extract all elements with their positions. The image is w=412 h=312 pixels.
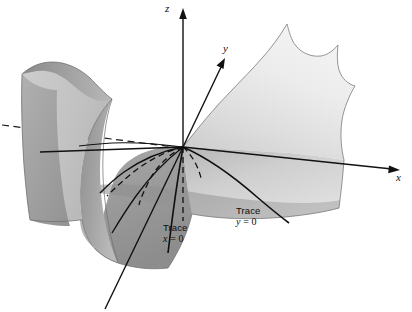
trace-label-x-equals-0: Trace x = 0 [163, 222, 187, 245]
trace-label-y-equals-0: Trace y = 0 [236, 205, 260, 228]
axis-y-arrowhead [217, 58, 226, 69]
trace-label-y-relation: = [243, 216, 249, 227]
trace-label-y-value: 0 [252, 216, 257, 227]
trace-label-x-equation: x = 0 [163, 233, 187, 245]
figure-canvas: z y x Trace x = 0 Trace y = 0 [0, 0, 412, 312]
trace-label-x-variable: x [163, 233, 168, 244]
saddle-surface-figure [0, 0, 412, 312]
axis-z-arrowhead [179, 8, 187, 19]
trace-label-x-value: 0 [179, 233, 184, 244]
trace-label-x-relation: = [170, 233, 176, 244]
surface-group [22, 24, 355, 269]
axis-label-z: z [165, 3, 169, 14]
trace-label-x-word: Trace [163, 222, 187, 233]
axis-label-x: x [396, 172, 401, 183]
trace-label-y-variable: y [236, 216, 241, 227]
trace-label-y-word: Trace [236, 205, 260, 216]
axis-label-y: y [223, 43, 228, 54]
trace-label-y-equation: y = 0 [236, 216, 260, 228]
